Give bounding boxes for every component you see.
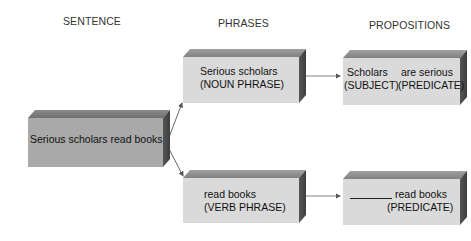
verb-phrase-text: read books [204,188,256,201]
proposition-2-box: read books (PREDICATE) [343,171,467,225]
noun-phrase-box: Serious scholars (NOUN PHRASE) [183,49,306,103]
proposition-1-predicate-label: (PREDICATE) [398,79,464,92]
proposition-1-box: Scholars (SUBJECT) are serious (PREDICAT… [343,50,467,105]
verb-phrase-label: (VERB PHRASE) [204,201,286,214]
sentence-box: Serious scholars read books [28,110,170,167]
arrow-sentence-to-noun-phrase [168,103,182,140]
proposition-1-subject-label: (SUBJECT) [344,79,399,92]
noun-phrase-text: Serious scholars [200,65,278,78]
proposition-2-subject-blank [350,198,392,199]
proposition-2-predicate-label: (PREDICATE) [387,201,453,214]
noun-phrase-label: (NOUN PHRASE) [200,78,284,91]
verb-phrase-box: read books (VERB PHRASE) [183,170,306,223]
proposition-1-subject: Scholars [347,66,388,79]
arrow-sentence-to-verb-phrase [168,147,183,176]
proposition-1-predicate: are serious [401,66,453,79]
sentence-text: Serious scholars read books [30,133,163,146]
proposition-2-predicate: read books [395,188,447,201]
